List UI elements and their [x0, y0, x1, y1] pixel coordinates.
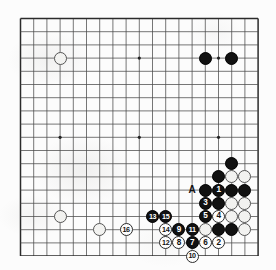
move-number: 11 — [189, 226, 196, 233]
move-stone-16[interactable]: 16 — [120, 223, 133, 236]
move-stone-11[interactable]: 11 — [186, 223, 199, 236]
black-stone[interactable] — [225, 52, 238, 65]
move-number: 7 — [190, 239, 194, 247]
black-stone[interactable] — [225, 184, 238, 197]
black-stone[interactable] — [199, 184, 212, 197]
move-stone-1[interactable]: 1 — [212, 184, 225, 197]
move-number: 6 — [203, 239, 207, 247]
black-stone[interactable] — [199, 52, 212, 65]
move-number: 5 — [203, 212, 207, 220]
move-stone-10[interactable]: 10 — [186, 250, 199, 263]
move-number: 15 — [162, 213, 169, 220]
black-stone[interactable] — [212, 197, 225, 210]
move-number: 9 — [177, 226, 181, 234]
white-stone[interactable] — [54, 210, 67, 223]
go-board[interactable]: 12345678910111213141516A — [14, 12, 264, 256]
move-number: 1 — [216, 186, 220, 194]
move-number: 14 — [162, 226, 169, 233]
move-number: 8 — [177, 239, 181, 247]
move-stone-13[interactable]: 13 — [146, 210, 159, 223]
move-stone-5[interactable]: 5 — [199, 210, 212, 223]
move-stone-4[interactable]: 4 — [212, 210, 225, 223]
move-number: 13 — [149, 213, 156, 220]
point-marker-A: A — [186, 184, 199, 197]
move-stone-3[interactable]: 3 — [199, 197, 212, 210]
move-number: 10 — [188, 252, 195, 259]
move-number: 3 — [203, 199, 207, 207]
move-number: 2 — [216, 239, 220, 247]
white-stone[interactable] — [54, 52, 67, 65]
move-number: 4 — [216, 212, 220, 220]
move-number: 12 — [162, 239, 169, 246]
move-number: 16 — [122, 226, 129, 233]
go-diagram-page: 12345678910111213141516A — [0, 0, 276, 270]
